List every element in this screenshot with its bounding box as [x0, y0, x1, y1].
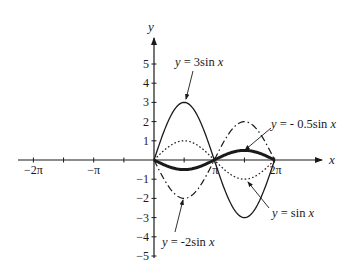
y-tick-label: −2: [136, 191, 149, 205]
annotation-neg-2sin-x: y = -2sin x: [160, 235, 215, 249]
y-tick-label: −5: [136, 249, 149, 263]
arrow-neg-2sin-x: [175, 200, 183, 232]
x-tick-label: −π: [87, 163, 100, 177]
ann-var-x: x: [217, 55, 224, 69]
plot-area: −2π−ππ2π 54321−1−2−3−4−5 x y y = 3sin x …: [0, 0, 351, 273]
ann-var-x: x: [330, 117, 337, 131]
ann-var-x: x: [308, 206, 315, 220]
annotation-3sin-x: y = 3sin x: [173, 55, 224, 69]
x-tick-label: −2π: [24, 163, 43, 177]
y-tick-label: −3: [136, 211, 149, 225]
ann-text: = 3sin: [181, 55, 218, 69]
y-tick-label: 4: [143, 76, 149, 90]
y-axis-label: y: [146, 19, 154, 34]
ann-var-x: x: [208, 235, 215, 249]
ann-text: = - 0.5sin: [277, 117, 331, 131]
y-tick-label: 1: [143, 134, 149, 148]
axes: −2π−ππ2π 54321−1−2−3−4−5: [18, 38, 322, 263]
y-tick-label: 3: [143, 95, 149, 109]
y-tick-label: −1: [136, 172, 149, 186]
y-tick-label: −4: [136, 230, 149, 244]
y-tick-label: 2: [143, 115, 149, 129]
ann-text: = sin: [278, 206, 309, 220]
arrow-3sin-x: [186, 71, 193, 99]
annotation-neg-0-5sin-x: y = - 0.5sin x: [269, 117, 337, 131]
annotation-sin-x: y = sin x: [270, 206, 315, 220]
y-tick-label: 5: [143, 57, 149, 71]
arrow-neg-0-5sin-x: [245, 128, 271, 150]
x-axis-label: x: [328, 152, 335, 167]
ann-text: = -2sin: [168, 235, 209, 249]
chart-figure: −2π−ππ2π 54321−1−2−3−4−5 x y y = 3sin x …: [0, 0, 351, 273]
